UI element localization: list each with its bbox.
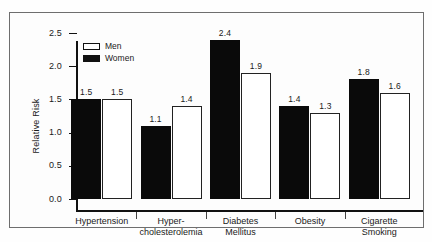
- bar-value-label: 1.3: [305, 101, 345, 111]
- legend-swatch-women-icon: [83, 55, 100, 62]
- bar-women: [279, 106, 309, 199]
- bar-men: [172, 106, 202, 199]
- bar-women: [71, 99, 101, 199]
- bar-value-label: 1.6: [375, 81, 415, 91]
- legend-label-women: Women: [105, 54, 134, 63]
- legend-item-women: Women: [83, 53, 134, 64]
- bar-value-label: 2.4: [205, 28, 245, 38]
- y-axis-tick-label: 0.0: [28, 194, 62, 204]
- y-axis-tick: [69, 33, 77, 34]
- bar-women: [349, 79, 379, 199]
- bar-value-label: 1.8: [344, 67, 384, 77]
- bar-men: [241, 73, 271, 199]
- y-axis-tick-label: 1.0: [28, 127, 62, 137]
- x-axis-category-line: Smoking: [337, 227, 422, 238]
- bar-men: [310, 113, 340, 199]
- y-axis-tick-label: 2.5: [28, 28, 62, 38]
- chart-frame: Relative Risk 0.00.51.01.52.02.5 Men Wom…: [9, 12, 424, 228]
- bar-value-label: 1.4: [167, 94, 207, 104]
- legend-label-men: Men: [105, 42, 122, 51]
- x-axis-line: [76, 210, 423, 212]
- x-axis-category-label: CigaretteSmoking: [337, 216, 422, 238]
- legend-item-men: Men: [83, 41, 134, 52]
- chart-legend: Men Women: [83, 41, 134, 65]
- legend-swatch-men-icon: [83, 43, 100, 50]
- figure-canvas: Relative Risk 0.00.51.01.52.02.5 Men Wom…: [0, 0, 432, 242]
- y-axis-tick: [69, 199, 77, 200]
- bar-women: [141, 126, 171, 199]
- y-axis-tick-label: 0.5: [28, 160, 62, 170]
- y-axis-tick-label: 1.5: [28, 94, 62, 104]
- y-axis-tick: [69, 66, 77, 67]
- bar-value-label: 1.9: [236, 61, 276, 71]
- y-axis-tick-label: 2.0: [28, 61, 62, 71]
- x-axis-category-line: Cigarette: [337, 216, 422, 227]
- x-axis-category-line: Mellitus: [198, 227, 283, 238]
- bar-men: [102, 99, 132, 199]
- bar-value-label: 1.5: [97, 87, 137, 97]
- bar-value-label: 1.1: [136, 114, 176, 124]
- bar-men: [380, 93, 410, 199]
